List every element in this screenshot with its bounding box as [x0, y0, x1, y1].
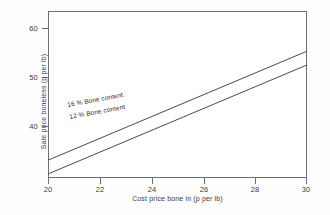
xtick-mark-26 — [204, 178, 205, 184]
x-axis-title: Cost price bone in (p per lb) — [48, 195, 307, 202]
xtick-mark-28 — [255, 178, 256, 184]
y-axis-title-wrap: Sale price boneless (p per lb) — [14, 20, 28, 140]
xtick-mark-30 — [306, 178, 307, 184]
xtick-label-24: 24 — [141, 185, 163, 194]
xtick-label-28: 28 — [244, 185, 266, 194]
xtick-label-20: 20 — [37, 185, 59, 194]
y-axis-title: Sale price boneless (p per lb) — [40, 27, 47, 177]
xtick-mark-22 — [100, 178, 101, 184]
series-line-16 — [48, 51, 307, 160]
xtick-label-26: 26 — [193, 185, 215, 194]
chart-figure: 16 % Bone content 12 % Bone content 60 5… — [0, 0, 330, 215]
xtick-label-22: 22 — [89, 185, 111, 194]
series-line-12 — [48, 65, 307, 174]
xtick-mark-24 — [152, 178, 153, 184]
xtick-mark-20 — [48, 178, 49, 184]
xtick-label-30: 30 — [295, 185, 317, 194]
data-lines — [48, 11, 307, 178]
